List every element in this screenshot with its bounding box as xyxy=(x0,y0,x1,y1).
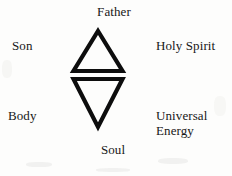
label-soul: Soul xyxy=(0,142,232,157)
label-universal-energy-line2: Energy xyxy=(156,123,207,138)
label-universal-energy-line1: Universal xyxy=(156,108,207,123)
label-soul-text: Soul xyxy=(101,142,125,157)
label-holy-spirit: Holy Spirit xyxy=(156,38,215,53)
triangle-diagram: Father Son Holy Spirit Body UniversalEne… xyxy=(0,0,232,176)
label-father-text: Father xyxy=(97,4,131,19)
scan-artifact xyxy=(158,158,188,164)
label-body-text: Body xyxy=(8,108,37,123)
label-father: Father xyxy=(0,4,232,19)
scan-artifact xyxy=(214,96,226,116)
downward-triangle xyxy=(74,79,123,127)
label-body: Body xyxy=(8,108,37,123)
label-universal-energy: UniversalEnergy xyxy=(156,108,207,138)
label-son-text: Son xyxy=(12,38,33,53)
scan-artifact xyxy=(96,168,130,172)
upward-triangle xyxy=(74,31,123,71)
scan-artifact xyxy=(26,162,52,167)
scan-artifact xyxy=(2,60,12,78)
label-holy-spirit-text: Holy Spirit xyxy=(156,38,215,53)
label-son: Son xyxy=(12,38,33,53)
